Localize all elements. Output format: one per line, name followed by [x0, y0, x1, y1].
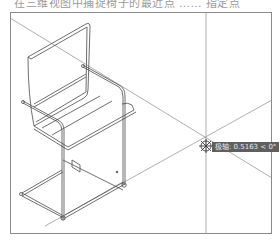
- cad-drawing-canvas[interactable]: [0, 0, 280, 242]
- chair-wireframe: [20, 23, 137, 220]
- snap-tooltip: 极轴: 0.5163 < 0°: [212, 142, 279, 152]
- crosshair-snap-icon: [199, 139, 213, 153]
